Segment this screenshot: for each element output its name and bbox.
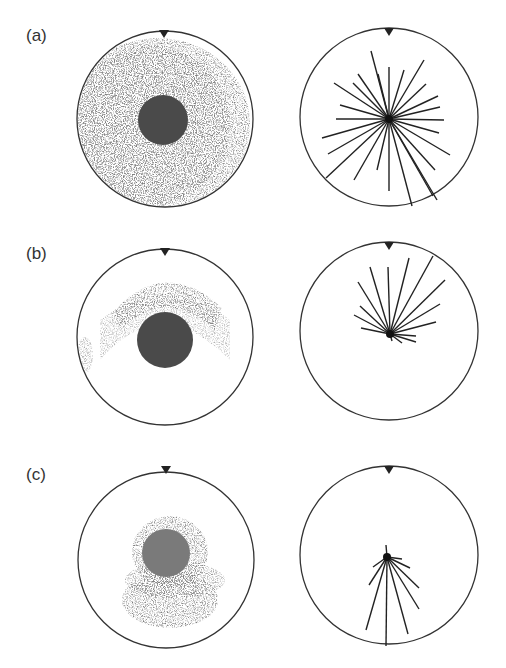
triangle-marker-icon xyxy=(384,466,394,474)
ray-line xyxy=(390,280,445,334)
ray-diagram-b xyxy=(300,242,478,420)
figure-canvas xyxy=(0,0,506,668)
triangle-marker-icon xyxy=(384,242,394,250)
ray-line xyxy=(390,256,433,334)
ray-line xyxy=(386,557,387,646)
core-c xyxy=(142,529,190,577)
core-b xyxy=(137,312,193,368)
ray-line xyxy=(358,74,389,119)
triangle-marker-icon xyxy=(160,248,170,256)
triangle-marker-icon xyxy=(161,466,171,474)
ray-line xyxy=(387,557,408,634)
ray-line xyxy=(377,119,389,170)
ray-line xyxy=(369,557,387,585)
triangle-marker-icon xyxy=(384,28,394,36)
ray-line xyxy=(388,267,390,334)
ray-line xyxy=(389,119,444,120)
photo-c xyxy=(78,466,254,648)
ray-diagram-c xyxy=(300,466,478,646)
triangle-marker-icon xyxy=(159,30,169,38)
ray-line xyxy=(390,258,409,334)
ray-line xyxy=(389,107,440,119)
ray-line xyxy=(366,557,387,630)
ray-line xyxy=(389,119,450,155)
ray-line xyxy=(328,119,389,154)
photo-b xyxy=(77,248,253,425)
photo-a xyxy=(66,30,253,210)
core-a xyxy=(138,95,188,145)
ray-diagram-a xyxy=(300,28,478,206)
